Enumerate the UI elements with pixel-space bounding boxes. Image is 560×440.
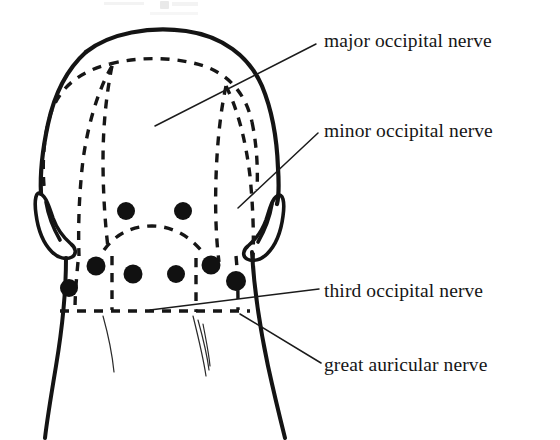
injection-point-marker-upper-right [174,202,192,220]
injection-point-marker-lower-left-inner [124,265,143,284]
injection-point-marker-lower-right-outer [202,256,221,275]
injection-point-marker-lower-right-inner [167,265,185,283]
label-minor-occipital-nerve: minor occipital nerve [324,120,493,141]
head-nerve-diagram: major occipital nerve minor occipital ne… [0,0,560,440]
injection-point-marker-lower-far-left [60,279,78,297]
anatomical-figure-root: major occipital nerve minor occipital ne… [0,0,560,440]
label-third-occipital-nerve: third occipital nerve [324,280,483,301]
label-major-occipital-nerve: major occipital nerve [324,30,492,51]
injection-point-marker-upper-left [117,202,135,220]
injection-point-marker-lower-far-right [226,271,246,291]
injection-point-marker-lower-left-outer [87,257,106,276]
label-great-auricular-nerve: great auricular nerve [324,354,487,375]
